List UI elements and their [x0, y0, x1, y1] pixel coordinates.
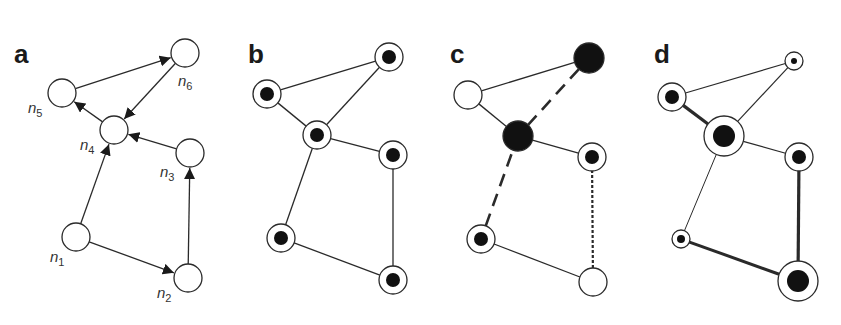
edge-n6-n4	[528, 69, 579, 125]
node-n3	[379, 141, 407, 169]
panel-a: an1n2n3n4n5n6	[14, 39, 204, 304]
node-label-n3: n3	[160, 163, 174, 183]
edges	[479, 62, 593, 277]
node-n3	[785, 143, 813, 171]
node-n4	[503, 121, 533, 151]
edge-n1-n4	[286, 148, 313, 225]
node-core	[386, 148, 400, 162]
node-n2	[778, 261, 818, 301]
edges	[683, 64, 799, 275]
edge-n2-n3	[798, 171, 799, 261]
node-circle	[503, 121, 533, 151]
node-n6	[785, 52, 803, 70]
edge-n2-n3	[188, 168, 190, 264]
edge-n1-n2	[689, 242, 779, 274]
node-core	[787, 270, 809, 292]
node-n1	[672, 230, 690, 248]
node-core	[310, 128, 324, 142]
edge-n4-n5	[278, 103, 306, 126]
edge-n1-n2	[294, 243, 380, 275]
node-n1: n1	[50, 223, 90, 268]
node-circle	[171, 39, 199, 67]
edge-n1-n4	[81, 144, 109, 224]
edge-n1-n4	[684, 154, 716, 230]
panel-letter: c	[450, 39, 464, 69]
edge-n3-n4	[532, 140, 578, 153]
node-n4	[303, 121, 331, 149]
node-n5	[658, 83, 686, 111]
node-n6: n6	[171, 39, 199, 92]
nodes	[658, 52, 818, 301]
node-n3	[578, 143, 606, 171]
node-label-n4: n4	[80, 136, 94, 156]
node-core	[274, 231, 288, 245]
node-label-n6: n6	[178, 72, 192, 92]
node-circle	[579, 268, 607, 296]
node-n2	[579, 268, 607, 296]
panel-letter: b	[248, 39, 264, 69]
edge-n4-n5	[479, 104, 507, 127]
node-circle	[574, 43, 604, 73]
node-core	[260, 87, 274, 101]
edge-n2-n3	[592, 171, 593, 268]
node-core	[792, 150, 806, 164]
edge-n1-n4	[486, 150, 513, 226]
panel-letter: d	[654, 39, 670, 69]
node-n5: n5	[28, 79, 76, 119]
node-n2	[379, 266, 407, 294]
node-core	[386, 273, 400, 287]
node-core	[585, 150, 599, 164]
edge-n3-n4	[128, 134, 176, 149]
edge-n3-n4	[743, 141, 785, 153]
node-circle	[100, 116, 128, 144]
node-core	[474, 232, 488, 246]
edge-n1-n2	[89, 242, 174, 273]
node-core	[665, 90, 679, 104]
node-label-n5: n5	[28, 99, 42, 119]
node-circle	[454, 81, 482, 109]
node-n6	[375, 43, 403, 71]
node-n1	[267, 224, 295, 252]
node-label-n1: n1	[50, 248, 64, 268]
edges	[278, 61, 393, 275]
panel-letter: a	[14, 39, 29, 69]
edge-n5-n6	[481, 62, 574, 91]
node-circle	[62, 223, 90, 251]
edge-n6-n4	[124, 63, 175, 119]
panel-b: b	[248, 39, 407, 294]
nodes: n1n2n3n4n5n6	[28, 39, 204, 304]
network-figure: an1n2n3n4n5n6bcd	[0, 0, 841, 325]
edge-n5-n6	[685, 64, 785, 93]
node-n5	[454, 81, 482, 109]
node-circle	[176, 139, 204, 167]
edge-n3-n4	[331, 139, 380, 152]
node-core	[791, 58, 797, 64]
node-n1	[467, 225, 495, 253]
node-n4	[704, 116, 744, 156]
edge-n5-n6	[280, 61, 375, 90]
panel-c: c	[450, 39, 607, 296]
panel-d: d	[654, 39, 818, 301]
edge-n6-n4	[326, 67, 379, 124]
node-n6	[574, 43, 604, 73]
edge-n1-n2	[494, 244, 580, 277]
node-n4: n4	[80, 116, 128, 156]
edge-n4-n5	[74, 102, 102, 122]
node-n2: n2	[157, 264, 202, 304]
node-core	[677, 235, 685, 243]
edges	[74, 58, 190, 273]
node-core	[382, 50, 396, 64]
edge-n4-n5	[683, 105, 708, 124]
node-n5	[253, 80, 281, 108]
node-label-n2: n2	[157, 284, 171, 304]
node-core	[713, 125, 735, 147]
node-circle	[174, 264, 202, 292]
node-circle	[48, 79, 76, 107]
